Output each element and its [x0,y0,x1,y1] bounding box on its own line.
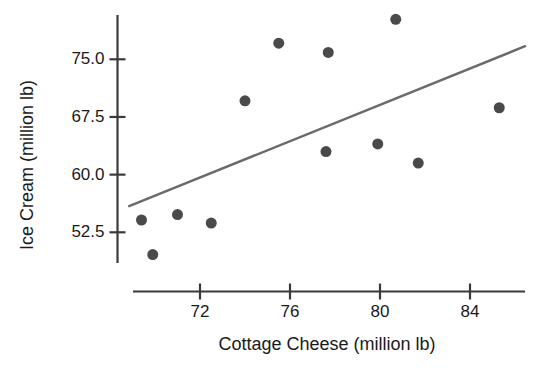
data-point [323,47,334,58]
data-point [240,95,251,106]
data-point [390,14,401,25]
y-axis-title: Ice Cream (million lb) [17,80,38,250]
x-tick-label: 72 [191,302,210,322]
data-point [494,102,505,113]
data-point [321,146,332,157]
data-point [136,214,147,225]
data-points-group [136,14,505,260]
y-tick-label: 75.0 [71,49,104,69]
data-point [273,38,284,49]
y-tick-label: 52.5 [71,222,104,242]
data-point [413,158,424,169]
scatter-plot-figure: 52.560.067.575.0 72768084 Cottage Cheese… [0,0,550,375]
regression-line [129,46,525,206]
x-tick-label: 84 [461,302,480,322]
data-point [147,249,158,260]
x-tick-label: 80 [371,302,390,322]
data-point [372,138,383,149]
axes-group [110,15,526,300]
x-tick-label: 76 [281,302,300,322]
data-point [206,218,217,229]
y-tick-label: 67.5 [71,107,104,127]
data-point [172,209,183,220]
x-axis-title: Cottage Cheese (million lb) [218,334,435,355]
y-tick-label: 60.0 [71,165,104,185]
